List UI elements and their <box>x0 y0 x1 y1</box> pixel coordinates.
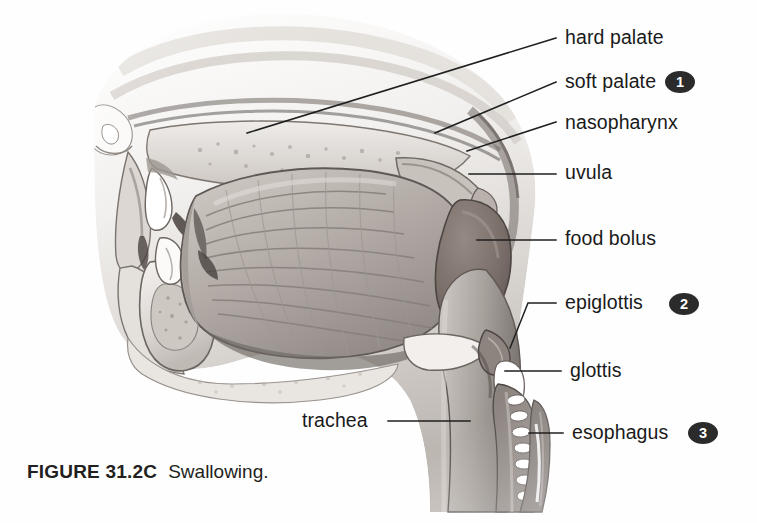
label-hard-palate: hard palate <box>565 28 664 48</box>
label-nasopharynx: nasopharynx <box>565 113 678 133</box>
label-layer: hard palate soft palate nasopharynx uvul… <box>0 0 757 523</box>
figure-container: hard palate soft palate nasopharynx uvul… <box>0 0 757 523</box>
label-trachea: trachea <box>302 411 368 431</box>
label-glottis: glottis <box>570 361 622 381</box>
label-uvula: uvula <box>565 163 612 183</box>
figure-caption-id: FIGURE 31.2C <box>27 461 157 482</box>
step-badge-3: 3 <box>688 422 718 444</box>
step-badge-2: 2 <box>669 293 699 315</box>
figure-caption-text: Swallowing. <box>168 461 268 482</box>
label-esophagus: esophagus <box>572 423 668 443</box>
label-food-bolus: food bolus <box>565 229 656 249</box>
label-soft-palate: soft palate <box>565 72 656 92</box>
step-badge-1: 1 <box>665 71 695 93</box>
label-epiglottis: epiglottis <box>565 293 643 313</box>
figure-caption: FIGURE 31.2CSwallowing. <box>27 461 269 483</box>
